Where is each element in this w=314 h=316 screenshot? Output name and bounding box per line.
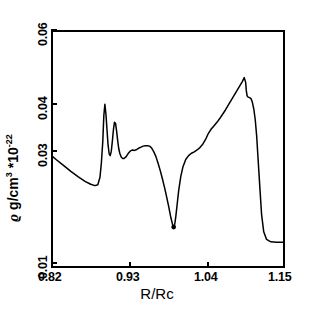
x-tick-label-1.04: 1.04 (194, 270, 218, 284)
rho-symbol: ϱ (5, 214, 21, 222)
curve-plot (51, 30, 285, 268)
y-axis-factor-exponent: -22 (4, 134, 14, 147)
y-tickmark-0.06 (51, 29, 57, 31)
x-tickmark-0.82 (51, 262, 53, 268)
y-tick-label-0.03: 0.03 (36, 143, 50, 167)
y-axis-units-exponent: 3 (4, 172, 14, 177)
x-tickmark-0.93 (129, 262, 131, 268)
density-curve (51, 78, 285, 243)
y-tickmark-0.03 (51, 150, 57, 152)
x-tick-label-0.93: 0.93 (116, 270, 140, 284)
y-axis-units: g/cm (5, 177, 21, 214)
x-tick-label-0.82: 0.82 (38, 270, 62, 284)
x-axis-title: R/Rc (0, 285, 314, 302)
density-profile-figure: 0.06 0.04 0.03 0.01 0.82 0.93 1.04 1.15 … (0, 0, 314, 316)
y-tickmark-0.04 (51, 103, 57, 105)
y-axis-factor: *10 (5, 147, 21, 172)
minimum-point-marker (171, 225, 176, 230)
y-tick-label-0.06: 0.06 (36, 22, 50, 46)
x-tick-label-1.15: 1.15 (268, 270, 292, 284)
x-tickmark-1.15 (283, 262, 285, 268)
x-tickmark-1.04 (207, 262, 209, 268)
y-tick-label-0.04: 0.04 (36, 96, 50, 120)
y-axis-title: ϱ g/cm3 *10-22 (4, 134, 22, 222)
